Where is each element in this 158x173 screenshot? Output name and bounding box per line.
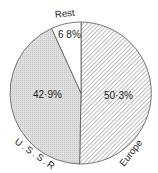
rest-value-label: 6 8% bbox=[58, 29, 81, 40]
ussr-value-label: 42·9% bbox=[33, 89, 62, 100]
rest-category-label: Rest bbox=[54, 7, 75, 20]
pie-chart: 50·3% 42·9% 6 8% Rest U.S.S.R Europe bbox=[0, 0, 158, 173]
europe-value-label: 50·3% bbox=[104, 90, 133, 101]
